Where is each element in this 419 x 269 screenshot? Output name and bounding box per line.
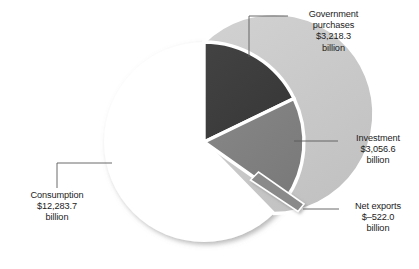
slice-label-government-purchases-unit: billion: [286, 43, 381, 54]
slice-label-government-purchases: Government purchases $3,218.3 billion: [286, 9, 381, 54]
slice-label-investment-line1: Investment: [340, 133, 416, 144]
slice-label-consumption-value: $12,283.7: [6, 201, 108, 212]
slice-label-net-exports: Net exports $–522.0 billion: [341, 201, 415, 235]
slice-label-investment-value: $3,056.6: [340, 144, 416, 155]
leader-line-consumption: [57, 163, 112, 188]
slice-label-government-purchases-line2: purchases: [286, 20, 381, 31]
slice-label-net-exports-line1: Net exports: [341, 201, 415, 212]
slice-label-government-purchases-value: $3,218.3: [286, 31, 381, 42]
slice-label-investment-unit: billion: [340, 155, 416, 166]
pie-chart-figure: Government purchases $3,218.3 billion In…: [0, 0, 419, 269]
slice-label-consumption: Consumption $12,283.7 billion: [6, 190, 108, 224]
slice-label-government-purchases-line1: Government: [286, 9, 381, 20]
slice-label-consumption-line1: Consumption: [6, 190, 108, 201]
slice-label-investment: Investment $3,056.6 billion: [340, 133, 416, 167]
slice-label-consumption-unit: billion: [6, 212, 108, 223]
slice-label-net-exports-unit: billion: [341, 223, 415, 234]
slice-label-net-exports-value: $–522.0: [341, 212, 415, 223]
